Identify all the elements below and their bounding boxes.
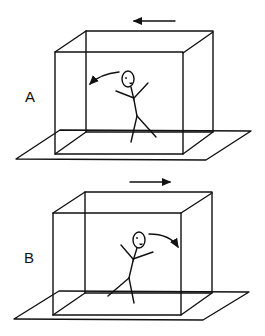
box-a bbox=[55, 31, 213, 154]
panel-label-a: A bbox=[25, 88, 35, 105]
panel-label-b: B bbox=[24, 249, 34, 266]
floor-plane bbox=[16, 130, 251, 160]
panel-a: A bbox=[16, 21, 251, 160]
diagram-canvas: A B bbox=[0, 0, 265, 336]
fall-arrow-forward-icon bbox=[149, 234, 178, 247]
fall-arrow-backward-icon bbox=[90, 72, 119, 84]
panel-b: B bbox=[14, 182, 249, 320]
